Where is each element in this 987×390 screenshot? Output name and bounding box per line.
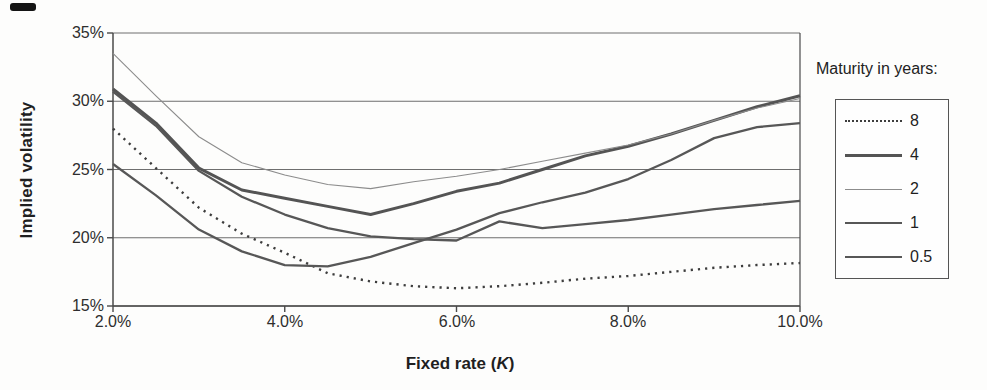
legend-line-8y	[845, 120, 902, 122]
x-tick-label: 6.0%	[439, 313, 475, 331]
legend-item-4y: 4	[845, 146, 948, 164]
legend-title: Maturity in years:	[816, 60, 938, 78]
y-axis-title: Implied volatility	[17, 102, 37, 239]
y-tick-label: 20%	[56, 229, 104, 247]
x-axis-title: Fixed rate (K)	[406, 354, 515, 374]
legend-label-2y: 2	[910, 180, 919, 198]
x-tick-label: 10.0%	[777, 313, 822, 331]
legend-item-1y: 1	[845, 214, 948, 232]
legend-label-05y: 0.5	[910, 248, 932, 266]
legend-line-05y	[845, 256, 902, 258]
implied-volatility-chart: 35% 30% 25% 20% 15% 2.0% 4.0% 6.0% 8.0% …	[0, 0, 987, 390]
legend-label-4y: 4	[910, 146, 919, 164]
y-tick-label: 30%	[56, 92, 104, 110]
x-tick-label: 8.0%	[610, 313, 646, 331]
legend-item-2y: 2	[845, 180, 948, 198]
legend-line-1y	[845, 222, 902, 224]
x-tick-label: 4.0%	[267, 313, 303, 331]
legend-line-4y	[845, 154, 902, 157]
legend-item-05y: 0.5	[845, 248, 948, 266]
x-tick-label: 2.0%	[95, 313, 131, 331]
legend: 8 4 2 1 0.5	[835, 99, 949, 279]
legend-line-2y	[845, 189, 902, 190]
legend-label-8y: 8	[910, 112, 919, 130]
y-tick-label: 35%	[56, 24, 104, 42]
legend-item-8y: 8	[845, 112, 948, 130]
legend-label-1y: 1	[910, 214, 919, 232]
y-tick-label: 25%	[56, 161, 104, 179]
